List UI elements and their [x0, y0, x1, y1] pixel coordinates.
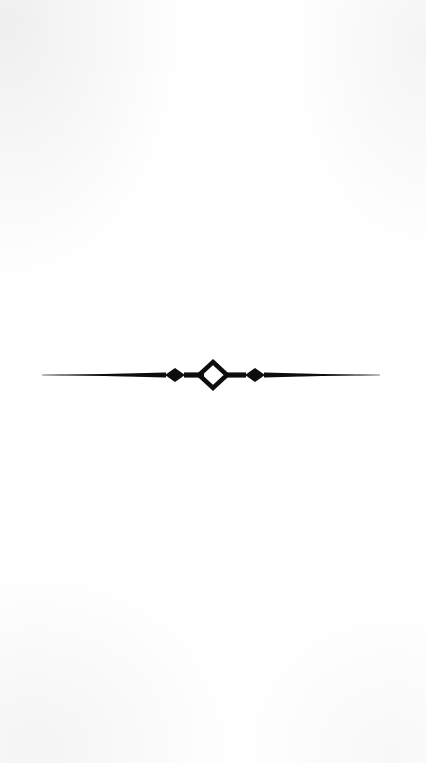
- ornamental-divider-rule: [0, 355, 426, 395]
- tapered-hairline-left: [42, 373, 166, 378]
- page-canvas: [0, 0, 426, 763]
- connector-bar-right: [226, 372, 246, 377]
- solid-diamond-left: [165, 368, 185, 382]
- solid-diamond-right: [245, 368, 265, 382]
- tapered-hairline-right: [264, 373, 380, 378]
